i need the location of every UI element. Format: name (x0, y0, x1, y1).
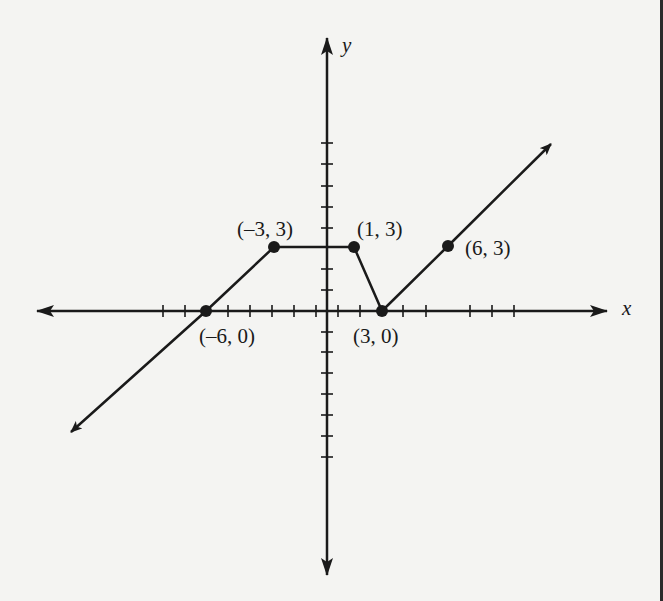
point-1-3 (348, 241, 360, 253)
label-point-1-3: (1, 3) (357, 219, 403, 240)
point-6-3 (442, 240, 454, 252)
y-axis-label: y (342, 35, 351, 56)
point-3-0 (376, 305, 388, 317)
point-neg6-0 (200, 305, 212, 317)
label-point-neg6-0: (–6, 0) (199, 326, 255, 347)
label-point-neg3-3: (–3, 3) (237, 219, 293, 240)
x-axis-label: x (622, 298, 631, 319)
coordinate-plane (0, 0, 663, 601)
graph-figure: y x (–6, 0) (–3, 3) (1, 3) (3, 0) (6, 3) (0, 0, 663, 601)
function-graph-line (71, 144, 551, 432)
label-point-6-3: (6, 3) (465, 238, 511, 259)
point-neg3-3 (268, 241, 280, 253)
label-point-3-0: (3, 0) (353, 326, 399, 347)
